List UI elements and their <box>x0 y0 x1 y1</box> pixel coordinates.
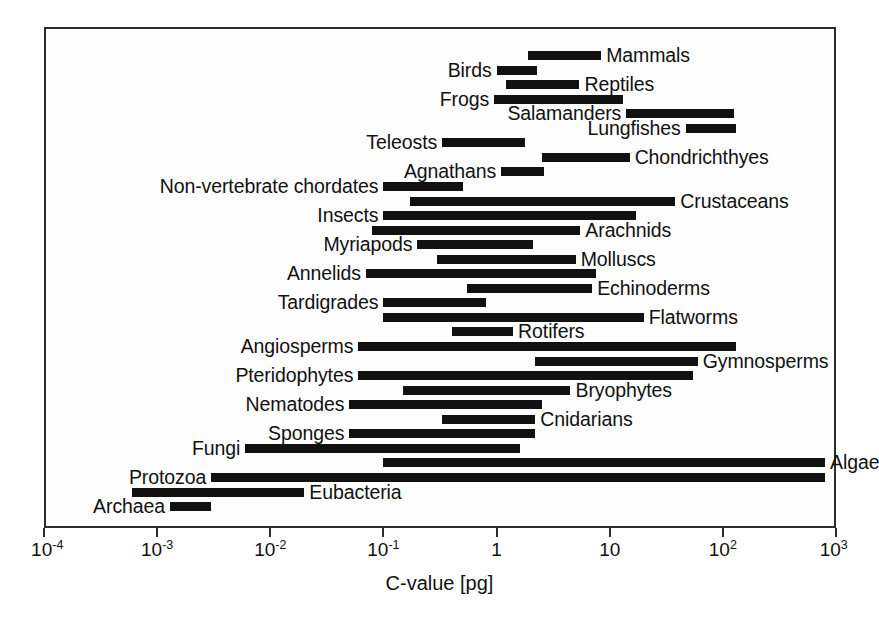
c-value-range-chart: MammalsBirdsReptilesFrogsSalamandersLung… <box>0 0 879 624</box>
x-tick-mark <box>156 528 158 537</box>
x-tick-label: 102 <box>709 539 737 561</box>
x-tick-label: 1 <box>491 539 502 561</box>
bar-label: Algae <box>830 452 879 472</box>
x-tick-mark <box>43 528 45 537</box>
x-axis-title: C-value [pg] <box>0 572 879 595</box>
x-tick-mark <box>722 528 724 537</box>
x-tick-label: 10-2 <box>254 539 286 561</box>
x-tick-label: 10 <box>599 539 620 561</box>
x-tick-label: 10-4 <box>31 539 63 561</box>
x-tick-mark <box>609 528 611 537</box>
x-axis: C-value [pg] 10-410-310-210-1110102103 <box>0 528 879 624</box>
x-tick-label: 10-1 <box>367 539 399 561</box>
x-tick-mark <box>835 528 837 537</box>
x-tick-label: 10-3 <box>141 539 173 561</box>
x-tick-mark <box>382 528 384 537</box>
x-tick-mark <box>496 528 498 537</box>
x-tick-mark <box>269 528 271 537</box>
plot-frame <box>44 27 836 528</box>
x-tick-label: 103 <box>820 539 848 561</box>
